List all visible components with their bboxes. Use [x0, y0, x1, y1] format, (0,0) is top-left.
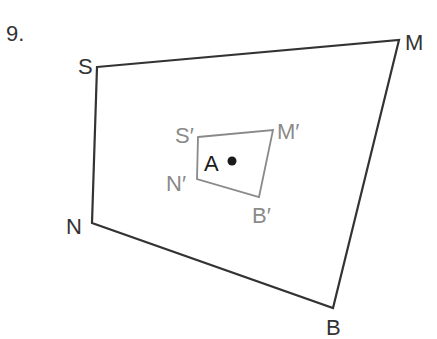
vertex-label-B-prime: B′ — [252, 203, 271, 228]
center-label-A: A — [204, 151, 219, 176]
dilation-diagram: 9. S M B N S′ M′ B′ N′ A — [0, 0, 437, 339]
problem-number: 9. — [6, 21, 24, 46]
vertex-label-N: N — [66, 214, 82, 239]
vertex-label-M: M — [405, 30, 423, 55]
vertex-label-M-prime: M′ — [277, 119, 299, 144]
vertex-label-N-prime: N′ — [166, 171, 186, 196]
original-quadrilateral-SMBN — [92, 40, 399, 308]
center-point-dot — [228, 157, 237, 166]
vertex-label-S: S — [78, 54, 93, 79]
vertex-label-B: B — [326, 315, 341, 339]
vertex-label-S-prime: S′ — [175, 123, 194, 148]
